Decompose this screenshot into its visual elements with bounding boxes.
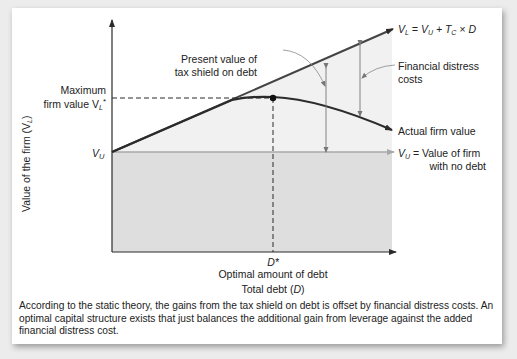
pv-tax-shield-label-line1: Present value of	[181, 53, 257, 65]
max-value-label-line1: Maximum	[60, 84, 106, 96]
d-star-label: D*	[267, 256, 280, 268]
shade-below-vu	[112, 152, 392, 252]
d-star-caption: Optimal amount of debt	[218, 268, 327, 280]
financial-distress-label-line2: costs	[398, 73, 423, 85]
vl-formula-label: VL = VU + TC × D	[398, 23, 476, 36]
optimal-point	[270, 95, 276, 101]
max-value-label-line2: firm value VL*	[44, 97, 106, 111]
vu-legend-line2: with no debt	[428, 160, 486, 172]
y-axis-title: Value of the firm (VL)	[20, 116, 33, 213]
actual-firm-value-label: Actual firm value	[398, 125, 476, 137]
pv-tax-shield-label-line2: tax shield on debt	[175, 66, 257, 78]
vu-legend-line1: VU = Value of firm	[398, 147, 480, 160]
figure-caption: According to the static theory, the gain…	[19, 300, 499, 338]
x-axis-title: Total debt (D)	[241, 283, 304, 295]
vu-tick-label: VU	[92, 147, 105, 161]
financial-distress-label-line1: Financial distress	[398, 60, 479, 72]
